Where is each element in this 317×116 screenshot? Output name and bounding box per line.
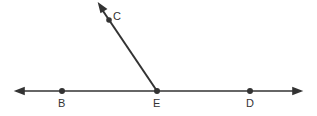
left-arrowhead-icon [16, 88, 24, 94]
point-d [248, 89, 252, 93]
point-c [107, 18, 111, 22]
label-d: D [246, 97, 254, 109]
right-arrowhead-icon [293, 88, 301, 94]
label-e: E [153, 97, 160, 109]
label-c: C [113, 10, 121, 22]
point-e [155, 89, 159, 93]
point-b [60, 89, 64, 93]
geometry-diagram: B E D C [0, 0, 317, 116]
label-b: B [58, 97, 65, 109]
ray-arrowhead-icon [99, 4, 106, 12]
